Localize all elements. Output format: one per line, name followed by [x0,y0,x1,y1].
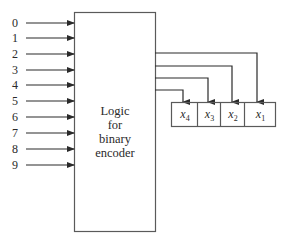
logic-block-line-2: for [74,118,156,132]
input-label-0: 0 [10,17,20,29]
register-cell-x1: x1 [245,102,276,126]
logic-block-line-1: Logic [74,104,156,118]
input-label-3: 3 [10,64,20,76]
output-wires [155,53,257,102]
register-cell-x3: x3 [198,102,221,126]
input-label-9: 9 [10,159,20,171]
input-arrows [26,23,74,165]
input-label-2: 2 [10,48,20,60]
logic-block-line-4: encoder [74,146,156,160]
register-cell-x2: x2 [221,102,245,126]
input-label-1: 1 [10,32,20,44]
input-label-6: 6 [10,111,20,123]
input-label-8: 8 [10,143,20,155]
output-wire-x2 [155,66,232,102]
output-wire-x4 [155,90,183,102]
register-cell-x4: x4 [172,102,198,126]
logic-block-label: Logic for binary encoder [74,104,156,160]
input-label-7: 7 [10,127,20,139]
input-label-4: 4 [10,79,20,91]
input-label-5: 5 [10,95,20,107]
logic-block-line-3: binary [74,132,156,146]
